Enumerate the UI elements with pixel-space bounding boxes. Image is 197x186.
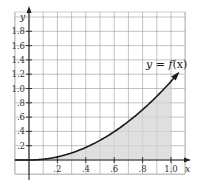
y-tick-label: .6 bbox=[17, 112, 25, 122]
function-lhs: y = bbox=[145, 58, 168, 71]
chart: .2.4.6.81.0.2.4.6.81.01.21.41.61.8 x y y… bbox=[0, 0, 197, 186]
y-tick-label: 1.0 bbox=[11, 84, 25, 94]
x-tick-label: .2 bbox=[53, 164, 61, 174]
x-tick-label: .4 bbox=[82, 164, 90, 174]
y-tick-label: 1.2 bbox=[11, 69, 25, 79]
y-axis-label: y bbox=[19, 12, 26, 22]
x-tick-label: 1.0 bbox=[164, 164, 178, 174]
x-axis-label: x bbox=[185, 164, 190, 174]
y-tick-label: .2 bbox=[17, 141, 25, 151]
x-tick-label: .8 bbox=[139, 164, 147, 174]
y-axis-arrow-icon bbox=[27, 6, 32, 13]
y-tick-label: .4 bbox=[17, 126, 25, 136]
y-tick-label: 1.6 bbox=[11, 41, 25, 51]
x-tick-label: .6 bbox=[110, 164, 118, 174]
function-arg: (x) bbox=[173, 58, 188, 71]
y-tick-label: .8 bbox=[17, 98, 25, 108]
y-tick-label: 1.4 bbox=[11, 55, 25, 65]
x-axis-arrow-icon bbox=[184, 158, 191, 163]
y-tick-label: 1.8 bbox=[11, 26, 25, 36]
function-label: y = f(x) bbox=[145, 58, 187, 71]
